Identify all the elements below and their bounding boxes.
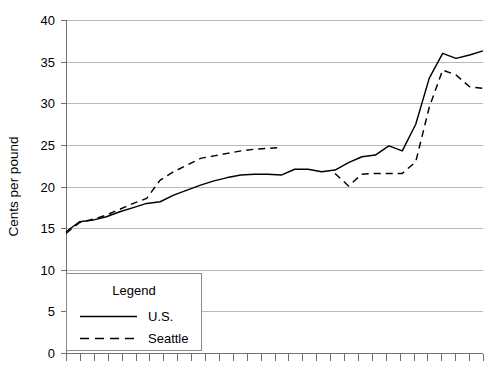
- y-tick-label: 15: [41, 221, 55, 236]
- legend-title: Legend: [112, 283, 155, 298]
- y-axis-title: Cents per pound: [6, 137, 21, 237]
- legend-label-us: U.S.: [148, 309, 173, 324]
- legend-label-seattle: Seattle: [148, 331, 188, 346]
- y-tick-label: 10: [41, 263, 55, 278]
- y-tick-label: 35: [41, 55, 55, 70]
- y-axis-tickmarks: [61, 21, 66, 354]
- legend: Legend U.S. Seattle: [67, 274, 202, 351]
- y-tick-label: 40: [41, 13, 55, 28]
- y-tick-label: 30: [41, 96, 55, 111]
- y-tick-label: 0: [48, 346, 55, 361]
- y-tick-label: 20: [41, 180, 55, 195]
- y-tick-label: 5: [48, 304, 55, 319]
- y-tick-label: 25: [41, 138, 55, 153]
- y-axis-tick-labels: 40 35 30 25 20 15 10 5 0: [41, 13, 55, 361]
- chart-container: 40 35 30 25 20 15 10 5 0 Cents per pound…: [0, 0, 498, 377]
- x-axis-tickmarks: [67, 354, 484, 361]
- line-chart: 40 35 30 25 20 15 10 5 0 Cents per pound…: [0, 0, 498, 377]
